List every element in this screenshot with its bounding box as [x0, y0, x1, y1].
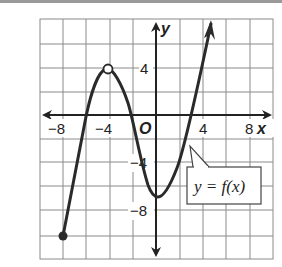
x-tick-4: 4	[199, 120, 207, 137]
origin-label: O	[139, 120, 152, 137]
y-tick-4: 4	[140, 60, 148, 77]
x-tick-labels: −8 −4 4 8 x	[46, 119, 274, 137]
function-graph: −8 −4 4 8 x 4 −4 −8 y O y = f(x)	[0, 0, 282, 267]
open-point-marker	[104, 65, 113, 74]
x-tick-8: 8	[245, 120, 253, 137]
y-tick-neg8: −8	[130, 202, 147, 219]
closed-endpoint-marker	[59, 232, 68, 241]
y-axis-label: y	[160, 20, 171, 37]
x-tick-neg4: −4	[95, 120, 112, 137]
x-axis-label: x	[256, 120, 267, 137]
callout-label: y = f(x)	[192, 177, 245, 196]
x-tick-neg8: −8	[48, 120, 65, 137]
